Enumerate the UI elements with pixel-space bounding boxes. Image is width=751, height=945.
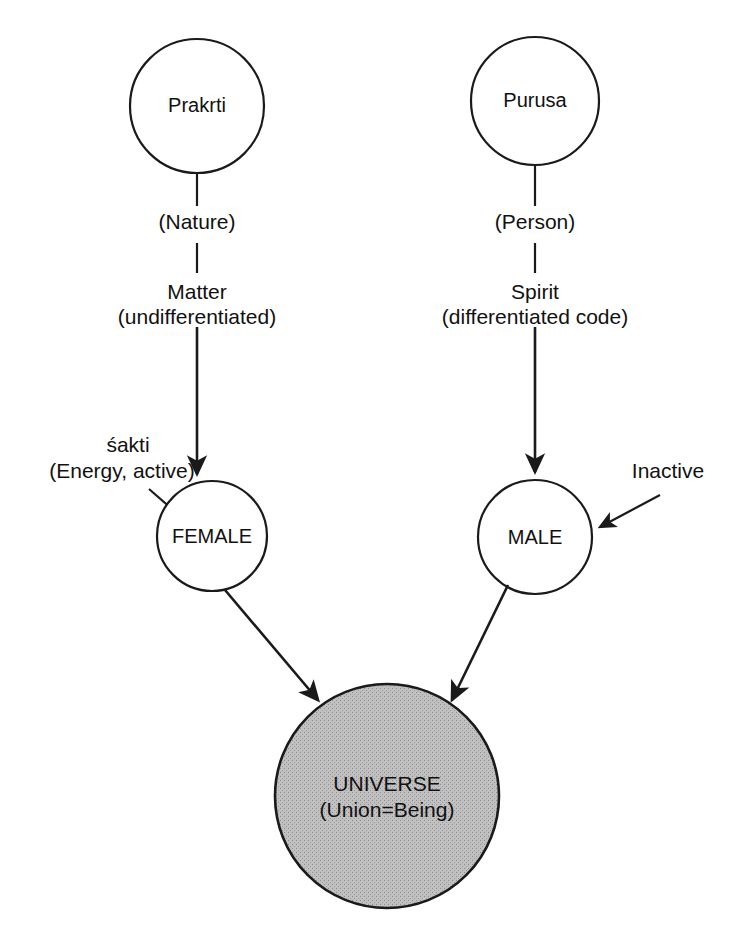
edge-label-shakti-sub: (Energy, active) — [49, 459, 195, 482]
prakrti-label: Prakrti — [168, 94, 226, 116]
edge-label-matter: Matter — [167, 280, 227, 303]
male-label: MALE — [508, 526, 562, 548]
node-universe[interactable]: UNIVERSE (Union=Being) — [275, 684, 499, 908]
node-female[interactable]: FEMALE — [157, 481, 267, 591]
edge-label-inactive: Inactive — [632, 459, 704, 482]
female-to-universe-arrow — [225, 590, 318, 700]
universe-circle[interactable] — [275, 684, 499, 908]
node-prakrti[interactable]: Prakrti — [130, 39, 264, 173]
edge-label-spirit-sub: (differentiated code) — [442, 305, 628, 328]
male-to-universe-arrow — [452, 585, 508, 700]
diagram-svg: Prakrti (Nature) Matter (undifferentiate… — [0, 0, 751, 945]
purusa-label: Purusa — [503, 89, 567, 111]
diagram-canvas: Prakrti (Nature) Matter (undifferentiate… — [0, 0, 751, 945]
edge-label-person: (Person) — [495, 210, 576, 233]
node-purusa[interactable]: Purusa — [471, 37, 599, 165]
edge-label-matter-sub: (undifferentiated) — [118, 305, 276, 328]
female-label: FEMALE — [172, 525, 252, 547]
universe-label-line2: (Union=Being) — [320, 798, 455, 821]
edge-label-shakti: śakti — [106, 433, 149, 456]
universe-label-line1: UNIVERSE — [333, 772, 440, 795]
edge-label-nature: (Nature) — [158, 210, 235, 233]
node-male[interactable]: MALE — [478, 480, 592, 594]
inactive-to-male-arrow — [600, 495, 660, 527]
edge-label-spirit: Spirit — [511, 280, 559, 303]
